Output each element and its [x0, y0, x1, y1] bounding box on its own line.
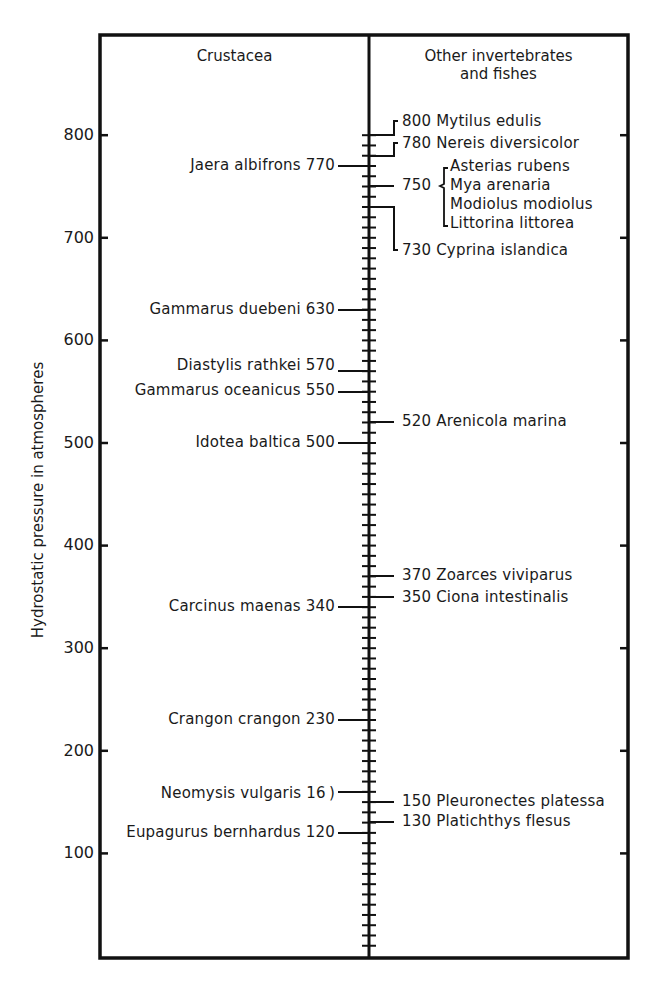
- y-tick-700: 700: [34, 229, 94, 247]
- label-littorina-littorea: Littorina littorea: [450, 215, 574, 232]
- label-gammarus-duebeni: Gammarus duebeni 630: [149, 301, 335, 318]
- brace-750-group: [440, 168, 448, 226]
- label-neomysis-vulgaris: Neomysis vulgaris 16 ): [161, 785, 335, 802]
- label-zoarces-viviparus: 370 Zoarces viviparus: [402, 567, 572, 584]
- label-750-group-value: 750: [402, 177, 431, 194]
- label-diastylis-rathkei: Diastylis rathkei 570: [177, 357, 335, 374]
- y-tick-600: 600: [34, 331, 94, 349]
- y-tick-100: 100: [34, 844, 94, 862]
- leader-mytilus: [369, 121, 398, 135]
- header-crustacea: Crustacea: [100, 47, 369, 65]
- leader-lines: [338, 121, 448, 833]
- header-other-line1: Other invertebrates: [369, 47, 628, 65]
- label-mytilus-edulis: 800 Mytilus edulis: [402, 113, 542, 130]
- label-crangon-crangon: Crangon crangon 230: [168, 711, 335, 728]
- label-jaera-albifrons: Jaera albifrons 770: [190, 157, 335, 174]
- label-nereis-diversicolor: 780 Nereis diversicolor: [402, 135, 579, 152]
- label-gammarus-oceanicus: Gammarus oceanicus 550: [135, 382, 335, 399]
- label-ciona-intestinalis: 350 Ciona intestinalis: [402, 589, 569, 606]
- label-eupagurus-bernhardus: Eupagurus bernhardus 120: [126, 824, 335, 841]
- label-arenicola-marina: 520 Arenicola marina: [402, 413, 567, 430]
- label-idotea-baltica: Idotea baltica 500: [195, 434, 335, 451]
- y-tick-400: 400: [34, 536, 94, 554]
- y-tick-200: 200: [34, 742, 94, 760]
- y-tick-500: 500: [34, 434, 94, 452]
- label-pleuronectes-platessa: 150 Pleuronectes platessa: [402, 793, 605, 810]
- label-cyprina-islandica: 730 Cyprina islandica: [402, 242, 568, 259]
- y-axis-label: Hydrostatic pressure in atmospheres: [29, 362, 47, 638]
- header-other-line2: and fishes: [369, 65, 628, 83]
- y-tick-300: 300: [34, 639, 94, 657]
- label-modiolus-modiolus: Modiolus modiolus: [450, 196, 593, 213]
- label-mya-arenaria: Mya arenaria: [450, 177, 551, 194]
- y-tick-800: 800: [34, 126, 94, 144]
- label-platichthys-flesus: 130 Platichthys flesus: [402, 813, 571, 830]
- label-carcinus-maenas: Carcinus maenas 340: [169, 598, 335, 615]
- label-asterias-rubens: Asterias rubens: [450, 158, 570, 175]
